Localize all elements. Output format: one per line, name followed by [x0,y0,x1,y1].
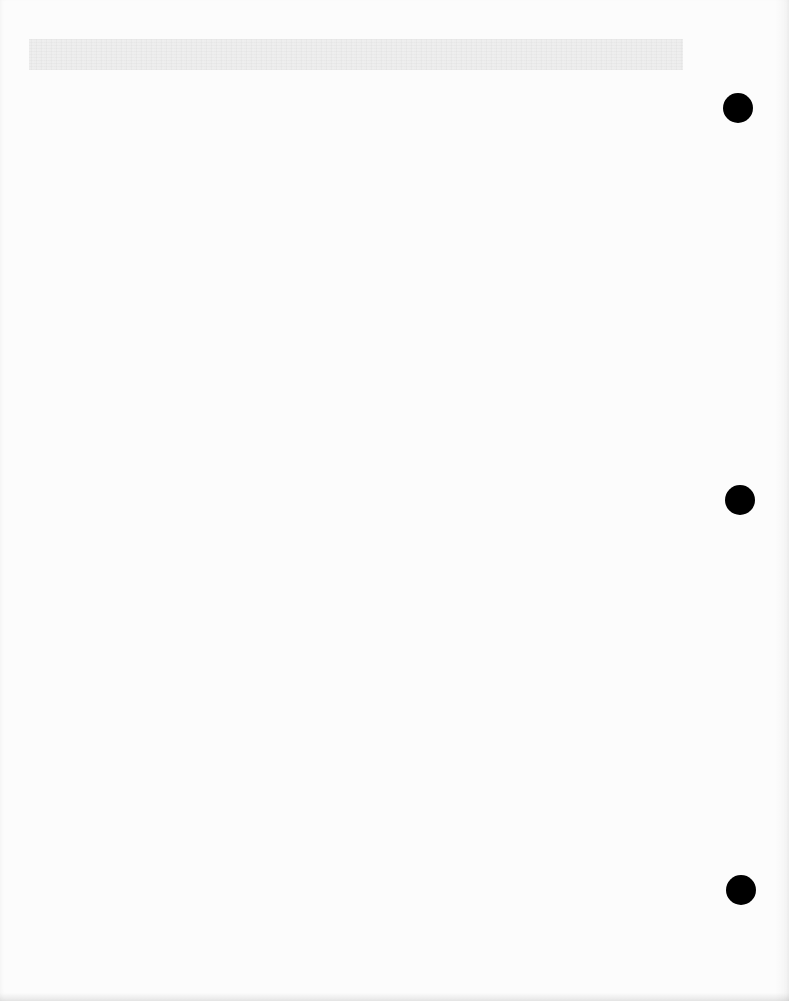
punch-hole-top [723,93,753,123]
page-right-edge-shadow [775,0,789,1001]
header-scan-band [29,39,683,70]
punch-hole-middle [725,485,755,515]
scanned-page [0,0,789,1001]
page-bottom-edge-shadow [0,993,789,1001]
punch-hole-bottom [726,875,756,905]
